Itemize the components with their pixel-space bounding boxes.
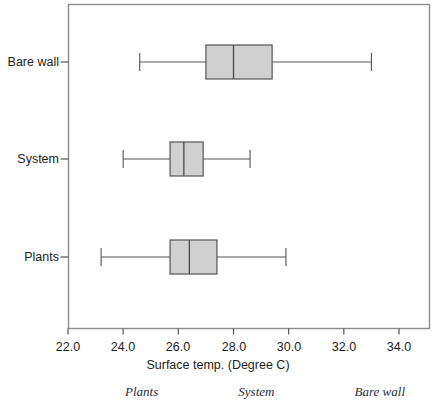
x-axis-title: Surface temp. (Degree C) xyxy=(0,358,436,372)
x-axis-ticks xyxy=(68,329,399,335)
x-tick-label-32: 32.0 xyxy=(332,340,356,354)
x-tick-label-24: 24.0 xyxy=(111,340,135,354)
x-tick-label-30: 30.0 xyxy=(277,340,301,354)
x-tick-label-28: 28.0 xyxy=(222,340,246,354)
category-label-plants: Plants xyxy=(24,250,59,264)
caption-item-bare-wall: Bare wall xyxy=(355,384,405,400)
iqr-box-plants xyxy=(170,240,217,274)
boxplot-figure: Bare wall System Plants 22.0 24.0 26.0 2… xyxy=(0,0,436,405)
y-axis-ticks xyxy=(61,62,69,257)
x-tick-label-34: 34.0 xyxy=(387,340,411,354)
caption-item-plants: Plants xyxy=(125,384,158,400)
x-tick-label-22: 22.0 xyxy=(56,340,80,354)
figure-caption-row: Plants System Bare wall xyxy=(125,384,405,400)
category-label-system: System xyxy=(17,152,59,166)
category-label-bare-wall: Bare wall xyxy=(8,55,59,69)
iqr-box-bare-wall xyxy=(206,45,272,79)
iqr-box-system xyxy=(170,142,203,176)
x-tick-label-26: 26.0 xyxy=(166,340,190,354)
caption-item-system: System xyxy=(238,384,274,400)
